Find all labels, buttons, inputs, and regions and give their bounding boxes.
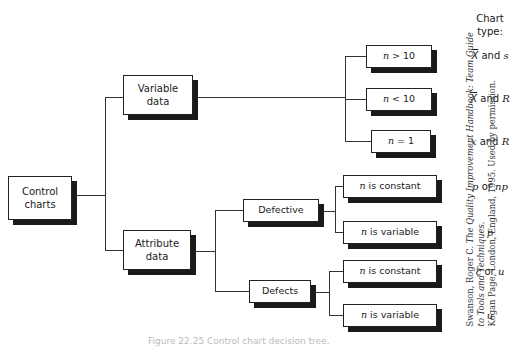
defects-n-constant-node: n is constant <box>343 260 437 283</box>
node-label: data <box>146 251 169 262</box>
connector-root-trunk <box>105 97 106 251</box>
chart-symbol: u <box>498 266 504 277</box>
node-label: charts <box>24 199 55 210</box>
connector-defects-out <box>315 292 330 293</box>
node-label: Control <box>22 186 58 197</box>
chart-symbol: R <box>502 93 510 104</box>
condition-text: > 10 <box>389 50 415 61</box>
control-charts-node: Controlcharts <box>8 176 72 220</box>
node-label: Defects <box>262 285 298 298</box>
connector-defects-variable <box>329 315 343 316</box>
node-label: Attribute <box>135 238 179 249</box>
n-eq-1-node: n = 1 <box>371 130 431 153</box>
n-gt-10-node: n > 10 <box>366 45 432 68</box>
defects-node: Defects <box>249 280 311 303</box>
connector-to-defects <box>215 291 249 292</box>
credit-publisher: Kogan Page, London, England, 1995. Used … <box>486 80 496 326</box>
node-label: Variable <box>138 83 179 94</box>
condition-text: is variable <box>367 309 419 320</box>
condition-text: < 10 <box>389 93 415 104</box>
condition-text: is constant <box>366 180 421 191</box>
defective-n-variable-node: n is variable <box>343 221 437 244</box>
connector-root <box>72 195 106 196</box>
connector-to-defective <box>215 210 243 211</box>
chart-symbol: R <box>502 136 510 147</box>
connector-n-lt-10 <box>345 99 366 100</box>
source-credit: Swanson, Roger C. The Quality Improvemen… <box>465 26 498 326</box>
chart-symbol: s <box>503 50 508 61</box>
connector-defective-variable <box>335 232 343 233</box>
credit-author: Swanson, Roger C. <box>465 243 475 326</box>
defects-n-variable-node: n is variable <box>343 304 437 327</box>
defective-node: Defective <box>243 199 319 222</box>
connector-defects-trunk <box>329 271 330 316</box>
variable-data-node: Variabledata <box>123 75 193 115</box>
defective-n-constant-node: n is constant <box>343 175 437 198</box>
connector-defective-constant <box>335 186 343 187</box>
header-line: Chart <box>476 13 503 24</box>
connector-defects-constant <box>329 271 343 272</box>
connector-n-eq-1 <box>345 141 371 142</box>
connector-to-variable <box>105 97 123 98</box>
node-label: Defective <box>258 204 303 217</box>
connector-attribute-trunk <box>215 210 216 292</box>
condition-text: is variable <box>367 226 419 237</box>
condition-text: is constant <box>366 265 421 276</box>
attribute-data-node: Attributedata <box>123 230 191 270</box>
node-label: data <box>147 96 170 107</box>
figure-caption: Figure 22.25 Control chart decision tree… <box>148 336 330 346</box>
condition-text: = 1 <box>394 135 414 146</box>
connector-defective-trunk <box>335 186 336 233</box>
connector-attribute-out <box>195 251 216 252</box>
connector-variable-out <box>197 97 346 98</box>
n-lt-10-node: n < 10 <box>366 88 432 111</box>
connector-to-attribute <box>105 250 123 251</box>
connector-n-gt-10 <box>345 56 366 57</box>
